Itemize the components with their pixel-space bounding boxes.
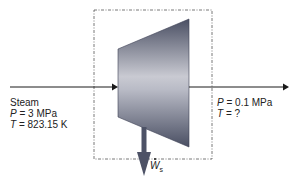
inlet-pressure: P = 3 MPa	[10, 108, 68, 119]
inlet-conditions: Steam P = 3 MPa T = 823.15 K	[10, 97, 68, 130]
inlet-arrowhead-icon	[112, 84, 118, 91]
outlet-temperature: T = ?	[217, 108, 272, 119]
inlet-temperature: T = 823.15 K	[10, 119, 68, 130]
shaft-work-arrowhead-icon	[137, 152, 151, 176]
shaft-work-label: Ws	[150, 160, 163, 172]
turbine-diagram	[0, 0, 295, 184]
turbine-body	[118, 19, 189, 147]
outlet-conditions: P = 0.1 MPa T = ?	[217, 97, 272, 119]
inlet-fluid-label: Steam	[10, 97, 68, 108]
outlet-arrowhead-icon	[283, 84, 289, 91]
shaft-work-arrow	[142, 127, 147, 153]
outlet-pressure: P = 0.1 MPa	[217, 97, 272, 108]
